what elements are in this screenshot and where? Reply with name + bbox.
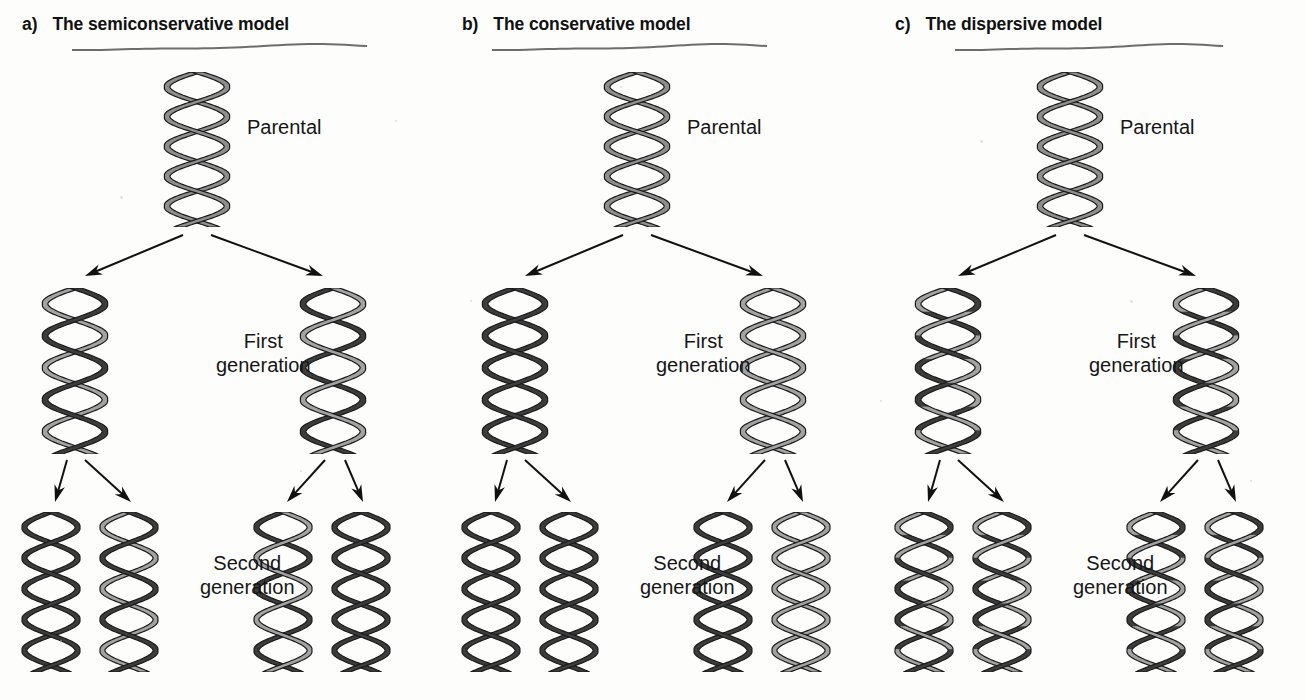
parental-helix [160,72,234,231]
paper-speck [700,660,702,662]
arrow-head [1160,486,1175,502]
second-generation-helix [1201,512,1267,676]
first-generation-label: First generation [216,330,311,377]
arrow-shaft [931,460,940,491]
panel-title-b: b)The conservative model [462,14,691,35]
second-generation-helix [768,512,834,676]
arrow-head [305,265,323,276]
dna-helix-parental [160,72,234,227]
dna-helix-second-gen [891,512,957,672]
second-generation-helix [969,512,1035,676]
dna-helix-second-gen [768,512,834,672]
arrow-head [85,264,103,276]
model-panel-a: a)The semiconservative modelParentalFirs… [0,0,440,700]
first-generation-helix [911,288,985,458]
arrow-head [1178,265,1196,276]
dna-helix-second-gen [536,512,602,672]
parental-label: Parental [247,116,322,140]
panel-letter-b: b) [462,14,478,35]
parental-helix [600,72,674,231]
dna-helix-parental [1033,72,1107,227]
first-generation-label: First generation [656,330,751,377]
arrow-head [745,265,763,276]
arrow-shaft [58,460,67,491]
arrow-head [351,484,363,502]
second-generation-label: Second generation [640,552,735,599]
second-generation-label: Second generation [1073,552,1168,599]
arrow-head [727,486,742,502]
arrow-shaft [1167,460,1198,494]
parental-helix [1033,72,1107,231]
arrow-shaft [345,460,359,492]
paper-speck [820,520,822,522]
arrow-head [555,487,571,502]
paper-speck [880,400,882,402]
first-generation-helix [38,288,112,458]
paper-speck [300,470,302,472]
arrow-head [287,486,302,502]
dna-helix-second-gen [969,512,1035,672]
second-generation-helix [536,512,602,676]
second-generation-helix [891,512,957,676]
arrow-shaft [1084,235,1186,272]
arrow-head [1224,484,1236,502]
arrow-shaft [294,460,325,494]
panel-title-c: c)The dispersive model [895,14,1102,35]
arrow-shaft [785,460,799,492]
first-generation-label: First generation [1089,330,1184,377]
paper-speck [1130,300,1133,303]
arrow-head [525,264,543,276]
paper-speck [395,120,397,122]
panel-title-a: a)The semiconservative model [22,14,289,35]
second-generation-helix [96,512,162,676]
arrow-shaft [958,460,996,495]
model-panel-b: b)The conservative modelParentalFirst ge… [440,0,873,700]
arrow-shaft [968,235,1056,272]
arrow-head [988,487,1004,502]
paper-speck [620,86,622,88]
arrow-head [54,484,64,502]
arrow-shaft [95,235,183,272]
hand-drawn-underline [72,38,367,56]
paper-speck [980,140,983,143]
arrow-head [115,487,131,502]
panel-title-text-b: The conservative model [493,14,690,34]
dna-helix-parental [600,72,674,227]
second-generation-helix [328,512,394,676]
second-generation-helix [18,512,84,676]
arrow-shaft [211,235,313,272]
panel-letter-a: a) [22,14,37,35]
dna-helix-second-gen [1201,512,1267,672]
arrow-head [958,264,976,276]
panel-title-text-c: The dispersive model [925,14,1102,34]
arrow-shaft [498,460,507,491]
dna-helix-first-gen [911,288,985,454]
paper-speck [120,196,123,199]
arrow-shaft [651,235,753,272]
model-panel-c: c)The dispersive modelParentalFirst gene… [873,0,1306,700]
arrow-shaft [734,460,765,494]
hand-drawn-underline [955,38,1223,56]
dna-helix-second-gen [458,512,524,672]
arrow-shaft [85,460,123,495]
arrow-head [927,484,937,502]
arrow-shaft [1218,460,1232,492]
figure-root: a)The semiconservative modelParentalFirs… [0,0,1306,700]
arrow-shaft [525,460,563,495]
second-generation-label: Second generation [200,552,295,599]
paper-speck [60,640,62,642]
panel-title-text-a: The semiconservative model [52,14,289,34]
parental-label: Parental [687,116,762,140]
arrow-head [494,484,504,502]
panel-letter-c: c) [895,14,910,35]
arrow-head [791,484,803,502]
parental-label: Parental [1120,116,1195,140]
dna-helix-second-gen [18,512,84,672]
paper-speck [470,300,472,302]
paper-speck [1250,480,1252,482]
dna-helix-first-gen [38,288,112,454]
dna-helix-second-gen [328,512,394,672]
second-generation-helix [458,512,524,676]
hand-drawn-underline [492,38,767,56]
dna-helix-second-gen [96,512,162,672]
